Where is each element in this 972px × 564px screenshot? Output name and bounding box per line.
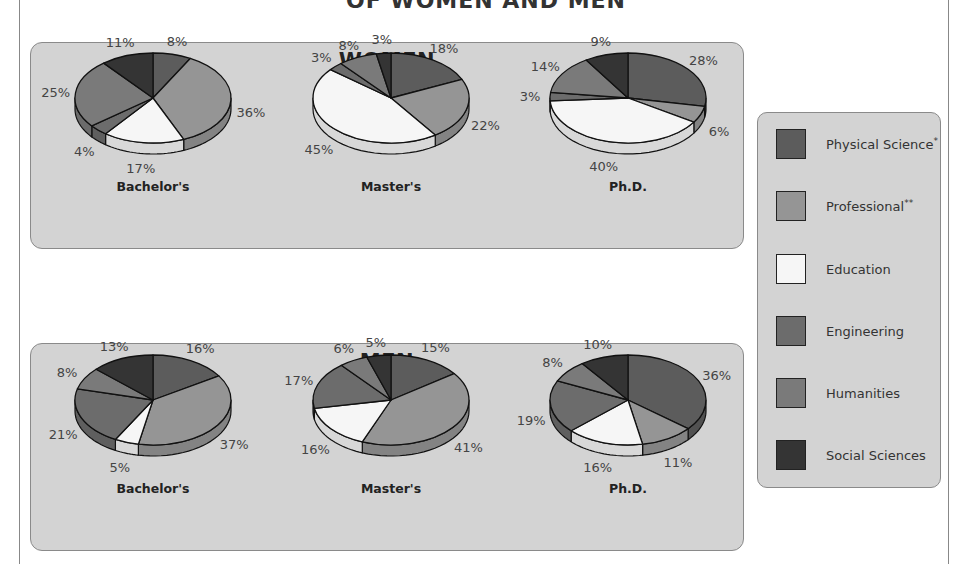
pie-pct-label: 16% [583,460,612,475]
pie-pct-label: 17% [126,161,155,176]
pie-pct-label: 11% [106,35,135,50]
pie-pct-label: 19% [517,413,546,428]
pie-men-phd: 36%11%16%19%8%10%Ph.D. [517,337,731,496]
pie-pct-label: 41% [454,440,483,455]
pie-pct-label: 4% [74,144,95,159]
pie-pct-label: 36% [236,105,265,120]
pie-pct-label: 5% [109,460,130,475]
pie-pct-label: 15% [421,340,450,355]
pie-pct-label: 17% [284,373,313,388]
pie-pct-label: 16% [301,442,330,457]
pie-pct-label: 18% [430,41,459,56]
degree-label: Bachelor's [116,481,189,496]
degree-label: Master's [361,481,421,496]
pie-pct-label: 36% [702,368,731,383]
pie-pct-label: 45% [305,142,334,157]
pie-women-phd: 28%6%40%3%14%9%Ph.D. [520,34,730,194]
pie-pct-label: 8% [57,365,78,380]
degree-label: Ph.D. [609,179,647,194]
pie-women-bachelors: 8%36%17%4%25%11%Bachelor's [41,34,265,194]
pie-charts: 8%36%17%4%25%11%Bachelor's18%22%45%3%8%3… [0,0,972,564]
pie-pct-label: 3% [311,50,332,65]
pie-pct-label: 3% [371,32,392,47]
pie-pct-label: 13% [100,339,129,354]
pie-pct-label: 11% [663,455,692,470]
pie-pct-label: 5% [365,335,386,350]
pie-pct-label: 3% [520,89,541,104]
pie-pct-label: 8% [339,38,360,53]
pie-pct-label: 8% [542,355,563,370]
pie-pct-label: 22% [471,118,500,133]
pie-pct-label: 6% [709,124,730,139]
degree-label: Bachelor's [116,179,189,194]
degree-label: Master's [361,179,421,194]
pie-pct-label: 28% [689,53,718,68]
pie-pct-label: 10% [583,337,612,352]
pie-pct-label: 37% [220,437,249,452]
pie-pct-label: 25% [41,85,70,100]
pie-pct-label: 6% [333,341,354,356]
pie-men-bachelors: 16%37%5%21%8%13%Bachelor's [49,339,249,496]
pie-pct-label: 8% [167,34,188,49]
pie-pct-label: 40% [589,159,618,174]
pie-pct-label: 21% [49,427,78,442]
pie-pct-label: 16% [186,341,215,356]
pie-pct-label: 14% [531,59,560,74]
pie-men-masters: 15%41%16%17%6%5%Master's [284,335,483,496]
degree-label: Ph.D. [609,481,647,496]
pie-women-masters: 18%22%45%3%8%3%Master's [305,32,500,194]
pie-pct-label: 9% [590,34,611,49]
